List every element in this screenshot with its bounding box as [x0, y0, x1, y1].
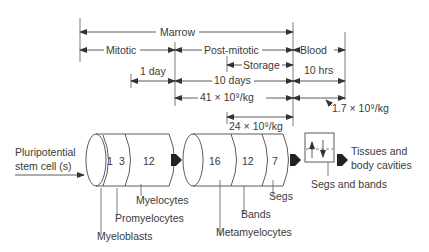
- ten-hrs-label: 10 hrs: [304, 64, 333, 76]
- myelocytes-label: Myelocytes: [136, 194, 189, 206]
- bands-count: 12: [242, 155, 254, 167]
- segs-label: Segs: [269, 190, 293, 202]
- post-mitotic-span: Post-mitotic: [175, 44, 293, 56]
- mitotic-label: Mitotic: [106, 44, 136, 56]
- marrow-span: Marrow: [80, 26, 293, 38]
- stem-cell-label-line1: Pluripotential: [15, 146, 76, 158]
- blood-box: [305, 133, 334, 176]
- myeloblasts-count: 1: [107, 155, 113, 167]
- stem-cell-label-line2: stem cell (s): [15, 160, 72, 172]
- flow-arrow-1: [171, 154, 182, 166]
- segs-and-bands-label: Segs and bands: [311, 178, 387, 190]
- tissues-label-line1: Tissues and: [351, 145, 407, 157]
- pool-41-span: 41 × 10⁹/kg: [175, 91, 293, 103]
- segs-count: 7: [272, 155, 278, 167]
- myelocytes-count: 12: [143, 155, 155, 167]
- pool-24-label: 24 × 10⁹/kg: [229, 120, 283, 132]
- metamyelocytes-count: 16: [209, 155, 221, 167]
- tissues-label-line2: body cavities: [351, 159, 412, 171]
- promyelocytes-count: 3: [119, 155, 125, 167]
- pool-1-7-label: 1.7 × 10⁹/kg: [332, 102, 389, 114]
- storage-label: Storage: [243, 59, 280, 71]
- blood-label: Blood: [300, 44, 327, 56]
- postmitotic-cylinder: 16 12 7: [183, 134, 289, 186]
- bands-label: Bands: [241, 208, 271, 220]
- mitotic-span: Mitotic: [80, 44, 175, 56]
- metamyelocytes-label: Metamyelocytes: [216, 226, 292, 238]
- ten-days-label: 10 days: [214, 74, 251, 86]
- blood-span: Blood: [293, 44, 345, 56]
- granulocyte-kinetics-diagram: Marrow Mitotic Post-mitotic Blood Storag…: [0, 0, 429, 252]
- storage-span: Storage: [227, 59, 293, 71]
- mitotic-cylinder: 1 3 12: [86, 134, 175, 186]
- post-mitotic-label: Post-mitotic: [204, 44, 259, 56]
- myeloblasts-label: Myeloblasts: [97, 230, 152, 242]
- marrow-label: Marrow: [160, 26, 195, 38]
- flow-arrow-2: [290, 154, 301, 166]
- ten-days-span: 10 days: [175, 74, 293, 86]
- flow-arrow-3: [337, 154, 348, 166]
- pool-41-label: 41 × 10⁹/kg: [200, 91, 254, 103]
- promyelocytes-label: Promyelocytes: [115, 212, 184, 224]
- one-day-label: 1 day: [140, 65, 166, 77]
